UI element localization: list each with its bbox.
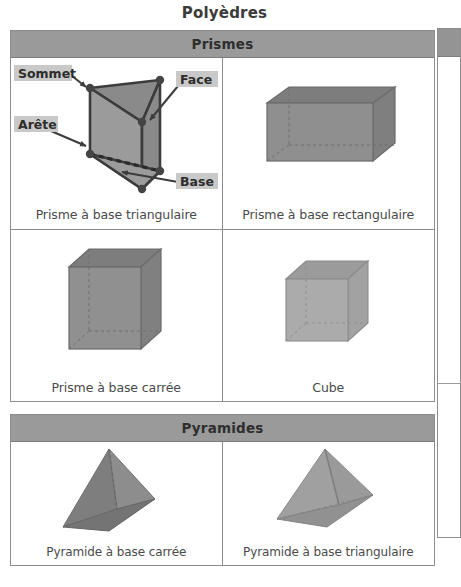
triangular-prism-svg: Sommet Face Arête Base <box>10 58 222 204</box>
prism-vertex-dot <box>86 149 94 157</box>
box-right-face <box>141 249 161 349</box>
label-sommet: Sommet <box>14 65 76 81</box>
adjacent-panel-divider <box>437 383 461 384</box>
figure-triangular-pyramid <box>223 442 435 540</box>
figure-square-prism <box>11 230 222 376</box>
prisms-table: Prismes <box>10 30 435 402</box>
prism-vertex-dot <box>138 117 146 125</box>
box-front-face <box>267 103 373 161</box>
figure-cube <box>223 230 435 376</box>
cube-front-face <box>286 279 348 341</box>
label-base: Base <box>176 173 218 189</box>
figure-triangular-prism: Sommet Face Arête Base <box>11 58 222 203</box>
prism-vertex-dot <box>156 75 164 83</box>
label-sommet-text: Sommet <box>18 66 76 81</box>
label-face-text: Face <box>180 72 212 87</box>
adjacent-panel-partial <box>437 28 461 538</box>
cube-svg <box>278 253 378 353</box>
cell-triangular-prism: Sommet Face Arête Base Pri <box>11 58 223 229</box>
caption-rectangular-prism: Prisme à base rectangulaire <box>223 207 435 229</box>
cell-square-pyramid: Pyramide à base carrée <box>11 442 223 566</box>
pyramids-header: Pyramides <box>11 415 434 442</box>
caption-triangular-prism: Prisme à base triangulaire <box>11 207 222 229</box>
pyramids-table: Pyramides Pyramide à base carrée <box>10 414 435 566</box>
figure-square-pyramid <box>11 442 222 540</box>
page-title: Polyèdres <box>0 4 449 22</box>
rectangular-prism-svg <box>255 81 401 181</box>
label-arete-text: Arête <box>18 117 57 132</box>
box-front-face <box>69 267 141 349</box>
prisms-header: Prismes <box>11 31 434 58</box>
prisms-row-2: Prisme à base carrée Cube <box>11 230 434 402</box>
caption-triangular-pyramid: Pyramide à base triangulaire <box>223 545 435 566</box>
caption-square-pyramid: Pyramide à base carrée <box>11 545 222 566</box>
pyramid-right-face <box>109 449 155 509</box>
adjacent-panel-header <box>438 29 460 57</box>
prisms-row-1: Sommet Face Arête Base Pri <box>11 58 434 230</box>
prism-vertex-dot <box>156 166 164 174</box>
cell-cube: Cube <box>223 230 435 402</box>
label-base-text: Base <box>180 174 214 189</box>
cell-triangular-pyramid: Pyramide à base triangulaire <box>223 442 435 566</box>
prism-vertex-dot <box>138 184 146 192</box>
label-arete: Arête <box>14 116 58 132</box>
cell-rectangular-prism: Prisme à base rectangulaire <box>223 58 435 229</box>
prism-vertex-dot <box>86 83 94 91</box>
figure-rectangular-prism <box>223 58 435 203</box>
square-pyramid-svg <box>51 443 181 539</box>
pyramids-row-1: Pyramide à base carrée Pyramide à ba <box>11 442 434 566</box>
caption-cube: Cube <box>223 380 435 402</box>
label-face: Face <box>176 71 218 87</box>
caption-square-prism: Prisme à base carrée <box>11 380 222 402</box>
square-prism-svg <box>61 243 171 363</box>
cell-square-prism: Prisme à base carrée <box>11 230 223 402</box>
triangular-pyramid-svg <box>263 443 393 539</box>
